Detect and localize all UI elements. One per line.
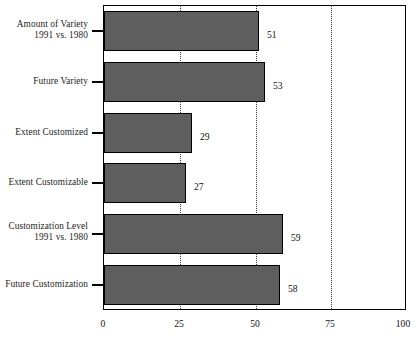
x-axis-tick-label-75: 75 [325,319,335,329]
y-axis-label-amount-of-variety: Amount of Variety 1991 vs. 1980 [0,19,88,42]
plot-area [103,5,406,310]
gridline-50 [256,6,257,309]
y-axis-label-line1: Future Variety [33,76,88,86]
bar-extent-customizable[interactable] [104,163,186,203]
bar-value-extent-customized: 29 [200,132,210,142]
y-axis-label-future-customization: Future Customization [0,279,88,290]
y-axis-label-line1: Extent Customizable [8,177,88,187]
y-axis-label-future-variety: Future Variety [0,76,88,87]
y-axis-tick-5 [92,233,103,235]
bar-value-future-variety: 53 [273,81,283,91]
y-axis-label-line1: Future Customization [5,279,88,289]
y-axis-label-line1: Amount of Variety [17,19,88,29]
bar-value-extent-customizable: 27 [194,182,204,192]
x-axis-tick-label-100: 100 [396,319,410,329]
gridline-25 [180,6,181,309]
bar-value-future-customization: 58 [288,284,298,294]
bar-chart: Amount of Variety 1991 vs. 1980 Future V… [0,0,418,338]
bar-customization-level[interactable] [104,214,283,254]
y-axis-label-line2: 1991 vs. 1980 [0,232,88,243]
x-axis-tick-label-50: 50 [250,319,260,329]
y-axis-tick-6 [92,284,103,286]
y-axis-tick-1 [92,30,103,32]
y-axis-tick-4 [92,182,103,184]
y-axis-label-line2: 1991 vs. 1980 [0,30,88,41]
y-axis-label-extent-customized: Extent Customized [0,127,88,138]
bar-future-customization[interactable] [104,265,280,305]
y-axis-label-extent-customizable: Extent Customizable [0,177,88,188]
bar-extent-customized[interactable] [104,113,192,153]
bar-value-customization-level: 59 [291,233,301,243]
y-axis-label-line1: Extent Customized [15,127,88,137]
y-axis-label-customization-level: Customization Level 1991 vs. 1980 [0,221,88,244]
y-axis-tick-2 [92,81,103,83]
x-axis-tick-label-25: 25 [174,319,184,329]
x-axis-tick-label-0: 0 [101,319,106,329]
bar-future-variety[interactable] [104,62,265,102]
y-axis-tick-3 [92,132,103,134]
y-axis-label-line1: Customization Level [8,221,88,231]
bar-amount-of-variety[interactable] [104,11,259,51]
gridline-75 [331,6,332,309]
bar-value-amount-of-variety: 51 [267,30,277,40]
y-axis-labels: Amount of Variety 1991 vs. 1980 Future V… [0,0,88,338]
